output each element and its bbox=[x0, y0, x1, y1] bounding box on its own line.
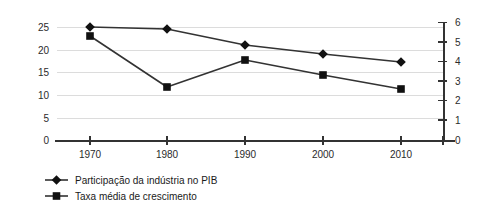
legend-label-1: Participação da indústria no PIB bbox=[75, 175, 218, 186]
x-tick-label-1990: 1990 bbox=[234, 149, 257, 160]
data-point-marker bbox=[85, 22, 95, 32]
left-tick-label-25: 25 bbox=[38, 22, 50, 33]
left-tick-label-20: 20 bbox=[38, 45, 50, 56]
data-point-marker bbox=[396, 57, 406, 67]
legend-item-taxa-media-crescimento[interactable]: Taxa média de crescimento bbox=[45, 191, 197, 202]
right-axis-labels: 6 5 4 3 2 1 0 bbox=[455, 17, 461, 146]
legend-label-2: Taxa média de crescimento bbox=[75, 191, 197, 202]
right-tick-label-0: 0 bbox=[455, 135, 461, 146]
data-point-marker bbox=[86, 32, 94, 40]
line-chart: 25 20 15 10 5 0 6 5 4 3 2 1 0 1970 1980 … bbox=[0, 0, 488, 208]
chart-legend: Participação da indústria no PIB Taxa mé… bbox=[45, 175, 218, 202]
data-point-marker bbox=[163, 83, 171, 91]
right-tick-label-5: 5 bbox=[455, 37, 461, 48]
legend-item-participacao-industria-pib[interactable]: Participação da indústria no PIB bbox=[45, 175, 218, 186]
data-point-marker bbox=[241, 56, 249, 64]
diamond-marker-icon bbox=[52, 175, 62, 185]
gridlines bbox=[57, 28, 443, 119]
data-point-marker bbox=[319, 71, 327, 79]
right-tick-label-6: 6 bbox=[455, 17, 461, 28]
x-tick-label-1980: 1980 bbox=[156, 149, 179, 160]
chart-container: 25 20 15 10 5 0 6 5 4 3 2 1 0 1970 1980 … bbox=[0, 0, 488, 208]
x-tick-label-2000: 2000 bbox=[312, 149, 335, 160]
right-tick-label-2: 2 bbox=[455, 95, 461, 106]
x-axis-labels: 1970 1980 1990 2000 2010 bbox=[79, 149, 413, 160]
left-tick-label-15: 15 bbox=[38, 67, 50, 78]
left-tick-label-10: 10 bbox=[38, 90, 50, 101]
right-tick-label-4: 4 bbox=[455, 56, 461, 67]
data-point-marker bbox=[162, 24, 172, 34]
x-tick-label-1970: 1970 bbox=[79, 149, 102, 160]
left-axis-labels: 25 20 15 10 5 0 bbox=[38, 22, 50, 146]
left-tick-label-0: 0 bbox=[43, 135, 49, 146]
right-tick-label-3: 3 bbox=[455, 76, 461, 87]
x-tick-label-2010: 2010 bbox=[390, 149, 413, 160]
data-point-marker bbox=[240, 40, 250, 50]
data-point-marker bbox=[397, 85, 405, 93]
right-tick-label-1: 1 bbox=[455, 115, 461, 126]
left-tick-label-5: 5 bbox=[43, 113, 49, 124]
square-marker-icon bbox=[53, 192, 61, 200]
